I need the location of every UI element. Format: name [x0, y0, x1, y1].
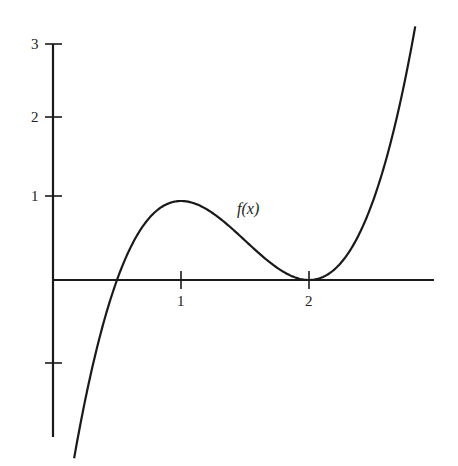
y-tick-label: 3: [31, 36, 39, 52]
x-tick-label: 2: [305, 293, 313, 309]
function-curve: [74, 26, 415, 458]
y-tick-label: 1: [31, 188, 39, 204]
x-tick-label: 1: [177, 293, 185, 309]
function-label: f(x): [237, 200, 259, 218]
y-tick-label: 2: [31, 109, 39, 125]
function-plot: 123 12 f(x): [0, 0, 458, 466]
chart-container: 123 12 f(x): [0, 0, 458, 466]
y-ticks: 123: [31, 36, 62, 363]
